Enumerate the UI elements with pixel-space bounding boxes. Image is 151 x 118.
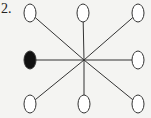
node-top-right	[132, 4, 144, 22]
node-bottom-left	[24, 95, 36, 113]
node-top-left	[24, 4, 36, 22]
node-bottom-middle	[78, 95, 90, 113]
edge-top-right	[84, 18, 133, 60]
node-middle-left-filled	[24, 51, 36, 69]
edge-bottom-left	[35, 60, 84, 100]
star-graph-diagram	[0, 0, 151, 118]
node-top-middle	[77, 4, 89, 22]
node-bottom-right	[132, 95, 144, 113]
edge-bottom-right	[84, 60, 133, 100]
edge-top-left	[35, 18, 84, 60]
diagram-canvas: 2.	[0, 0, 151, 118]
node-middle-right	[132, 51, 144, 69]
edge-top-middle	[83, 22, 84, 60]
